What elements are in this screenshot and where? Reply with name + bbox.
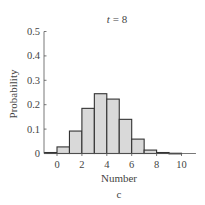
y-axis-label: Probability	[7, 69, 19, 118]
x-tick-label: 10	[176, 159, 187, 170]
chart-title: t = 8	[107, 13, 128, 25]
histogram-chart: 00.10.20.30.40.50246810 t = 8 Probabilit…	[0, 0, 205, 205]
panel-label: c	[117, 188, 122, 200]
x-tick-label: 8	[154, 159, 159, 170]
y-tick-label: 0.1	[27, 124, 40, 135]
y-tick-label: 0.2	[27, 99, 40, 110]
y-tick-label: 0.5	[27, 26, 40, 37]
y-tick-label: 0	[35, 148, 40, 159]
x-tick-label: 0	[54, 159, 59, 170]
histogram-bar	[82, 108, 94, 153]
histogram-bar	[144, 150, 156, 153]
x-axis-label: Number	[101, 172, 137, 184]
histogram-bar	[132, 139, 144, 153]
bars-group	[45, 94, 182, 154]
y-tick-label: 0.3	[27, 75, 40, 86]
y-tick-label: 0.4	[27, 50, 41, 61]
x-tick-label: 6	[129, 159, 134, 170]
x-tick-label: 4	[104, 159, 110, 170]
x-tick-label: 2	[79, 159, 84, 170]
histogram-bar	[119, 119, 131, 153]
histogram-bar	[107, 99, 119, 153]
histogram-bar	[57, 147, 69, 154]
histogram-bar	[94, 94, 106, 154]
histogram-bar	[69, 131, 81, 153]
